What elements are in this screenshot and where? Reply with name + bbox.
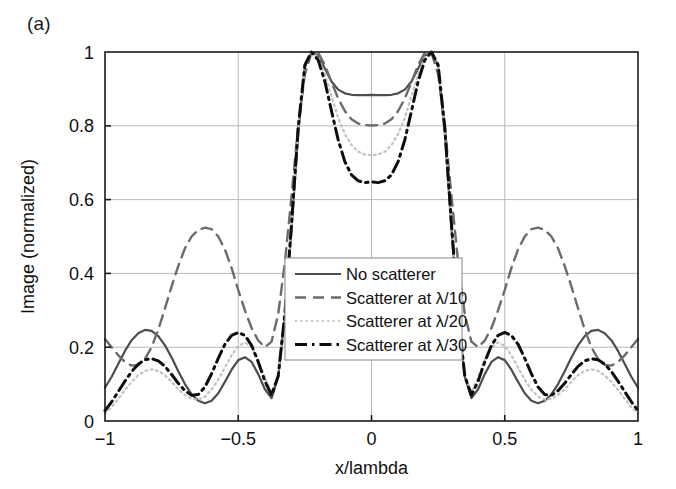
- grid-layer: [105, 52, 638, 421]
- x-tick-label: −0.5: [220, 429, 256, 449]
- legend-label-2: Scatterer at λ/10: [346, 289, 467, 307]
- y-tick-label: 1: [84, 43, 94, 63]
- y-tick-label: 0.8: [69, 116, 94, 136]
- chart-canvas: 00.20.40.60.81−1−0.500.51 x/lambdaImage …: [0, 0, 676, 489]
- x-tick-label: −1: [95, 429, 116, 449]
- x-tick-label: 1: [633, 429, 643, 449]
- x-tick-label: 0.5: [492, 429, 517, 449]
- y-tick-label: 0.4: [69, 264, 94, 284]
- y-tick-label: 0: [84, 412, 94, 432]
- x-axis-title: x/lambda: [335, 458, 409, 478]
- legend-label-1: No scatterer: [346, 265, 436, 283]
- y-tick-label: 0.6: [69, 190, 94, 210]
- y-axis-title: Image (normalized): [18, 159, 38, 314]
- chart-legend: No scattererScatterer at λ/10Scatterer a…: [285, 258, 467, 360]
- legend-label-4: Scatterer at λ/30: [346, 336, 467, 354]
- legend-label-3: Scatterer at λ/20: [346, 312, 467, 330]
- axis-ticks-layer: 00.20.40.60.81−1−0.500.51: [69, 43, 643, 450]
- figure-panel: (a) 00.20.40.60.81−1−0.500.51 x/lambdaIm…: [0, 0, 676, 489]
- y-tick-label: 0.2: [69, 338, 94, 358]
- x-tick-label: 0: [366, 429, 376, 449]
